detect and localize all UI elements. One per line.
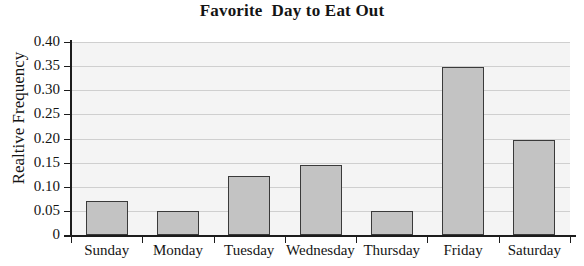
- y-tick-label: 0.25: [0, 106, 60, 121]
- bar-chart: Favorite Day to Eat Out Realtive Frequen…: [0, 0, 584, 266]
- y-tick: [64, 114, 72, 115]
- gridline: [71, 42, 570, 43]
- bar-monday: [157, 211, 199, 235]
- bar-saturday: [513, 140, 555, 235]
- bar-thursday: [371, 211, 413, 235]
- gridline: [71, 139, 570, 140]
- y-tick-label: 0.30: [0, 82, 60, 97]
- gridline: [71, 90, 570, 91]
- y-tick: [64, 66, 72, 67]
- y-tick: [64, 163, 72, 164]
- bar-wednesday: [300, 165, 342, 235]
- y-tick-label: 0.05: [0, 203, 60, 218]
- y-tick-label: 0.20: [0, 131, 60, 146]
- y-tick: [64, 90, 72, 91]
- bar-tuesday: [228, 176, 270, 235]
- gridline: [71, 114, 570, 115]
- bar-sunday: [86, 201, 128, 235]
- y-tick: [64, 211, 72, 212]
- y-tick: [64, 42, 72, 43]
- y-tick: [64, 187, 72, 188]
- y-tick: [64, 139, 72, 140]
- chart-title: Favorite Day to Eat Out: [0, 1, 584, 21]
- y-tick-label: 0.10: [0, 179, 60, 194]
- x-tick-label: Saturday: [489, 242, 580, 259]
- gridline: [71, 66, 570, 67]
- y-tick-label: 0.35: [0, 58, 60, 73]
- y-tick-label: 0.15: [0, 155, 60, 170]
- gridline: [71, 163, 570, 164]
- y-tick-label: 0: [0, 227, 60, 242]
- y-tick-label: 0.40: [0, 34, 60, 49]
- bar-friday: [442, 67, 484, 235]
